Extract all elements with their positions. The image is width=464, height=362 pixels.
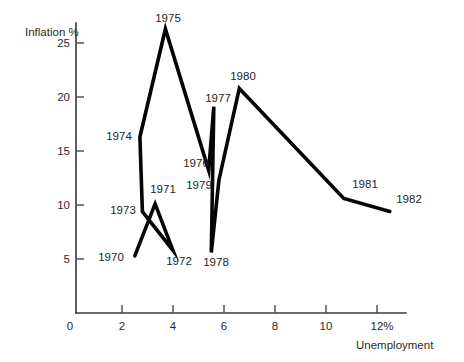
inflation-unemployment-line (135, 29, 390, 256)
point-label-1974: 1974 (106, 130, 132, 142)
y-tick-label-15: 15 (57, 145, 70, 157)
point-label-1980: 1980 (230, 70, 256, 82)
point-label-1975: 1975 (155, 12, 181, 24)
y-axis-title: Inflation % (25, 26, 79, 38)
point-label-1981: 1981 (352, 178, 378, 190)
x-tick-marks (122, 305, 377, 313)
x-tick-labels: 2 4 6 8 10 12% (119, 320, 394, 332)
axes-group (76, 23, 406, 313)
point-label-1979: 1979 (186, 179, 212, 191)
y-tick-label-20: 20 (57, 91, 70, 103)
point-label-1977: 1977 (205, 92, 231, 104)
x-tick-label-4: 4 (170, 320, 177, 332)
y-tick-marks (76, 43, 84, 259)
x-tick-label-2: 2 (119, 320, 125, 332)
y-tick-labels: 25 20 15 10 5 (57, 37, 70, 265)
x-tick-label-10: 10 (320, 320, 333, 332)
point-label-1978: 1978 (203, 256, 229, 268)
chart-container: 25 20 15 10 5 0 2 4 6 8 10 12% Inflation… (0, 0, 464, 362)
phillips-curve-chart: 25 20 15 10 5 0 2 4 6 8 10 12% Inflation… (0, 0, 464, 362)
origin-label: 0 (67, 320, 73, 332)
point-label-1971: 1971 (150, 183, 176, 195)
x-tick-label-8: 8 (272, 320, 278, 332)
y-tick-label-10: 10 (57, 199, 70, 211)
point-label-1970: 1970 (98, 251, 124, 263)
y-tick-label-25: 25 (57, 37, 70, 49)
x-tick-label-6: 6 (221, 320, 227, 332)
point-label-1982: 1982 (396, 193, 422, 205)
point-label-1976: 1976 (183, 157, 209, 169)
y-tick-label-5: 5 (64, 253, 70, 265)
point-label-1973: 1973 (110, 204, 136, 216)
x-tick-label-12: 12% (370, 320, 393, 332)
x-axis-title: Unemployment (356, 339, 434, 351)
point-label-1972: 1972 (166, 255, 192, 267)
